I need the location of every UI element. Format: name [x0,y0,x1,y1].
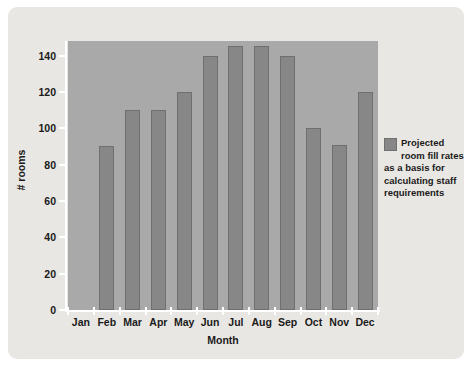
bar-slot [300,41,326,310]
y-axis-line [65,41,67,312]
bar-feb[interactable] [99,146,114,310]
bar-slot [145,41,171,310]
x-tick [145,307,147,315]
bar-slot [223,41,249,310]
bar-slot [120,41,146,310]
legend-color-swatch [384,138,397,151]
x-axis-title: Month [68,334,378,346]
plot-area [68,41,378,310]
y-tick [59,55,67,57]
x-tick [325,307,327,315]
y-tick-label: 20 [18,269,56,279]
bar-slot [326,41,352,310]
x-tick [351,307,353,315]
y-tick-label: 40 [18,232,56,242]
bar-slot [94,41,120,310]
x-tick [67,307,69,315]
y-tick-label: 100 [18,123,56,133]
y-tick-label: 0 [18,305,56,315]
bar-apr[interactable] [151,110,166,310]
bar-jun[interactable] [203,56,218,310]
x-tick [274,307,276,315]
x-tick [377,307,379,315]
y-tick [59,236,67,238]
x-tick [170,307,172,315]
x-tick [93,307,95,315]
bar-jul[interactable] [228,46,243,310]
y-tick [59,200,67,202]
x-tick [300,307,302,315]
y-tick-label: 120 [18,87,56,97]
bar-chart: 020406080100120140 JanFebMarAprMayJunJul… [8,7,464,359]
bar-mar[interactable] [125,110,140,310]
figure-card: 020406080100120140 JanFebMarAprMayJunJul… [8,7,464,359]
x-tick [222,307,224,315]
y-tick [59,273,67,275]
x-tick [196,307,198,315]
bar-oct[interactable] [306,128,321,310]
bar-may[interactable] [177,92,192,310]
bar-slot [68,41,94,310]
x-tick [119,307,121,315]
bar-aug[interactable] [254,46,269,310]
y-axis-title: # rooms [15,135,27,205]
y-tick [59,309,67,311]
bar-dec[interactable] [358,92,373,310]
bar-slot [197,41,223,310]
bar-slot [249,41,275,310]
bar-slot [352,41,378,310]
bar-nov[interactable] [332,145,347,310]
bar-sep[interactable] [280,56,295,310]
y-tick [59,91,67,93]
bars-layer [68,41,378,310]
y-tick-label: 140 [18,51,56,61]
y-tick [59,127,67,129]
x-tick-label-dec: Dec [345,316,385,328]
bar-slot [171,41,197,310]
x-tick [248,307,250,315]
bar-slot [275,41,301,310]
y-tick [59,164,67,166]
chart-legend: Projected room fill rates as a basis for… [384,137,464,200]
